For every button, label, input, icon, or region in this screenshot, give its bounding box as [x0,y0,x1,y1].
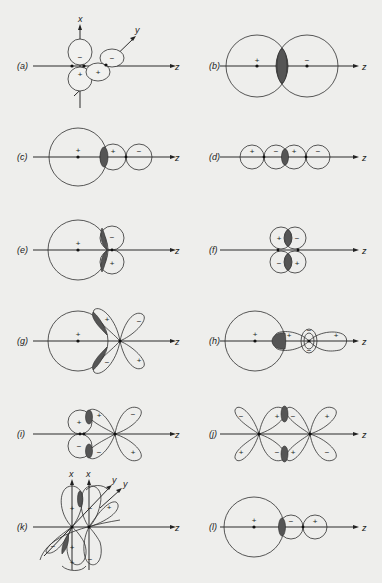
overlap-region [101,228,107,250]
sign: − [305,56,310,65]
sign: − [88,504,93,513]
z-axis-label: z [174,337,180,347]
z-axis-label: z [174,62,180,72]
sign: + [70,558,75,567]
x-axis-arrow-icon [70,479,74,485]
overlap-region [281,406,288,422]
sign: + [275,412,280,421]
d-lobe [115,407,141,434]
sign: − [51,542,56,551]
panel-k: (k) z x x y y + − + − + + [17,469,180,571]
d-lobe [286,434,310,461]
sign: + [107,503,112,512]
d-lobe [286,407,310,434]
panel-label-f: (f) [209,245,218,255]
sign: − [97,448,102,457]
panel-a: (a) z x y − + + − [17,14,180,108]
sign: − [137,317,142,326]
sign: − [289,517,294,526]
overlap-region [86,444,93,458]
panel-b: (b) z + − [209,35,367,97]
sign: + [250,147,255,156]
px-lobe [84,527,101,565]
sign: + [252,516,257,525]
z-axis-arrow-icon [353,525,359,529]
sign: − [131,410,136,419]
overlap-region [78,491,83,507]
sign: + [313,517,318,526]
overlap-region [272,333,286,349]
overlap-region [282,149,289,165]
sign: + [97,411,102,420]
panel-label-g: (g) [17,336,28,346]
sign: − [295,234,300,243]
overlap-region [279,518,286,536]
z-axis-arrow-icon [353,155,359,159]
y-axis-arrow-icon [130,36,136,41]
sign: + [78,70,83,79]
z-axis-label: z [361,153,367,163]
panel-label-d: (d) [209,152,220,162]
panel-g: (g) z + + − − + [17,309,180,374]
sign: + [255,56,260,65]
sign: + [253,330,258,339]
x-axis-label: x [77,14,83,24]
x-axis-label: x [85,469,91,479]
z-axis-arrow-icon [353,432,359,436]
overlap-region [277,49,287,83]
overlap-region [100,147,108,167]
panel-h: (h) z + + − − + [209,311,367,371]
sign: + [96,68,101,77]
panel-l: (l) z + − + [209,497,367,557]
d-lobe [115,434,141,461]
sign: − [88,555,93,564]
x-axis-arrow-icon [78,24,82,30]
panel-d: (d) z + − + − [209,145,367,169]
dz2-lobe-right [309,332,347,351]
overlap-region [285,230,292,246]
x-axis-arrow-icon [87,479,91,485]
z-axis-arrow-icon [353,248,359,252]
sign: + [334,331,339,340]
panel-c: (c) z + + − [17,128,180,186]
overlap-region [101,250,107,272]
overlap-region [285,254,292,270]
sign: + [76,146,81,155]
sign: + [292,147,297,156]
orbital-overlap-figure: (a) z x y − + + − (b) z + − [0,0,382,583]
z-axis-label: z [361,430,367,440]
panel-label-i: (i) [17,429,25,439]
sign: + [287,331,292,340]
panel-e: (e) z + − + [17,220,180,280]
sign: + [137,356,142,365]
z-axis-label: z [361,523,367,533]
z-axis-arrow-icon [353,339,359,343]
z-axis-label: z [174,246,180,256]
sign: + [277,234,282,243]
sign: + [76,239,81,248]
panel-j: (j) z − + + − − + + − [209,406,367,462]
sign: + [111,147,116,156]
sign: + [110,259,115,268]
d-lobe [310,407,336,434]
sign: + [131,448,136,457]
panel-label-l: (l) [209,522,217,532]
sign: − [277,259,282,268]
sign: + [325,412,330,421]
z-axis-label: z [361,246,367,256]
y-axis-label: y [122,479,128,489]
y-axis-arrow-icon [106,485,112,490]
panel-label-k: (k) [17,522,28,532]
z-axis-arrow-icon [353,64,359,68]
panel-label-c: (c) [17,152,28,162]
y-axis-label: y [134,25,140,35]
overlap-region [281,446,288,462]
panel-label-b: (b) [209,61,220,71]
sign: + [295,259,300,268]
sign: − [110,233,115,242]
panel-label-e: (e) [17,245,28,255]
cross-lobe [40,520,120,560]
sign: − [291,412,296,421]
y-axis-label: y [111,475,117,485]
z-axis-label: z [174,523,180,533]
